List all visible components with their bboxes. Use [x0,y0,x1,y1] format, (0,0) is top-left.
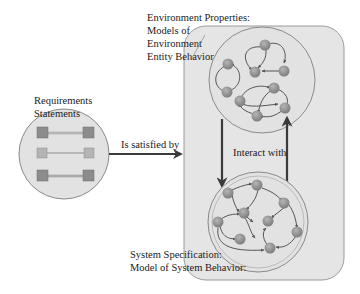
interact-with-label: Interact with [233,147,287,158]
environment-label-line2: Models of [147,25,190,36]
environment-node [269,83,280,94]
system-node [235,234,246,245]
system-node [279,198,290,209]
environment-node [252,111,263,122]
satisfied-by-label: Is satisfied by [121,139,180,150]
environment-label-line3: Environment [147,38,202,49]
system-node [239,208,250,219]
requirements-circle [19,109,109,199]
environment-node [280,103,291,114]
requirements-label-line2: Statements [34,108,80,119]
system-node [213,217,224,228]
system-node [263,216,274,227]
environment-label-line1: Environment Properties: [147,12,250,23]
environment-node [222,87,233,98]
requirements-label-line1: Requirements [34,95,92,106]
system-model-circle [208,172,308,272]
environment-node [250,67,261,78]
system-node [252,180,263,191]
system-node [265,243,276,254]
environment-node [223,59,234,70]
system-node [292,227,303,238]
environment-label-line4: Entity Behavior [147,51,214,62]
system-node [223,188,234,199]
system-label-line2: Model of System Behavior: [130,262,246,273]
environment-model-circle [209,27,315,133]
environment-node [279,66,290,77]
requirements-diagram: Requirements Statements Is satisfied by … [0,0,360,294]
environment-node [235,96,246,107]
environment-node [260,40,271,51]
system-label-line1: System Specification: [130,249,222,260]
